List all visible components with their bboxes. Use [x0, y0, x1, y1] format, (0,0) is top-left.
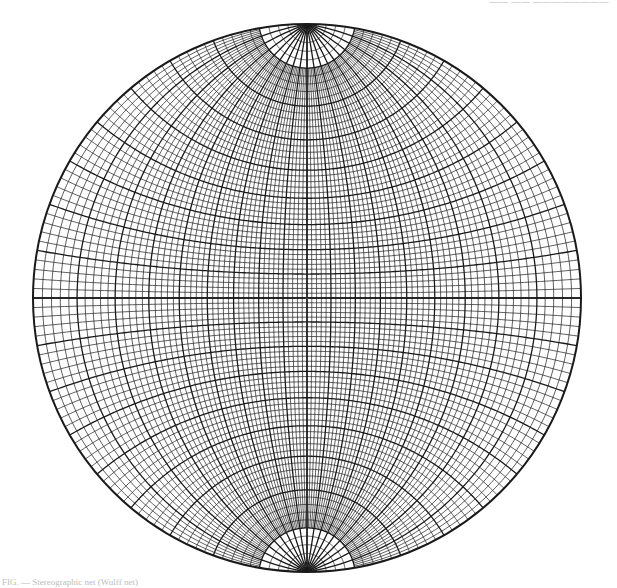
wulff-net-diagram: + [0, 0, 617, 588]
figure-caption: FIG. — Stereographic net (Wulff net) [2, 577, 138, 587]
center-marker: + [305, 294, 310, 303]
